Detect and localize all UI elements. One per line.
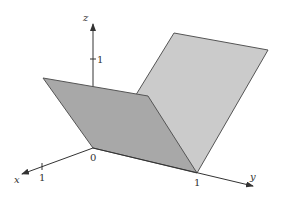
x-axis: [22, 148, 93, 174]
origin-label: 0: [90, 152, 96, 163]
3d-plot: z 1 x 1 0 1 y: [0, 0, 282, 199]
y-tick-label: 1: [194, 177, 200, 188]
plot-canvas: z 1 x 1 0 1 y: [0, 0, 282, 199]
x-tick-label: 1: [39, 172, 45, 183]
z-tick-label: 1: [97, 54, 103, 65]
x-axis-label: x: [14, 174, 20, 185]
z-axis-label: z: [82, 12, 89, 23]
y-axis-label: y: [249, 171, 256, 182]
